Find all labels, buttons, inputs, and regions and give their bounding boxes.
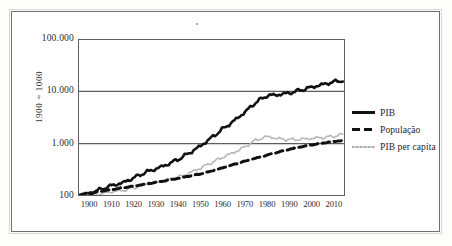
legend-label: PIB per capita — [380, 142, 436, 152]
thin-line-key — [352, 141, 375, 152]
legend-item: PIB per capita — [352, 138, 444, 155]
legend-label: PIB — [380, 108, 395, 118]
dashed-line-key — [352, 124, 375, 135]
y-tick-label: 100.000 — [42, 33, 74, 43]
legend-label: População — [380, 125, 420, 135]
y-tick-label: 10.000 — [47, 85, 74, 95]
solid-line-key — [352, 107, 375, 118]
figure: 1001.00010.000100.000 1900 = 1000 190019… — [0, 0, 452, 246]
y-tick-label: 1.000 — [52, 138, 74, 148]
chart-legend: PIBPopulaçãoPIB per capita — [352, 104, 444, 155]
legend-item: População — [352, 121, 444, 138]
y-axis-tick-labels: 1001.00010.000100.000 — [24, 0, 74, 246]
x-axis-tick-labels: 1900191019201930194019501960197019801990… — [78, 199, 345, 215]
y-axis-title: 1900 = 1000 — [34, 52, 44, 142]
y-tick-label: 100 — [59, 190, 74, 200]
scan-speck — [196, 23, 198, 25]
x-tick-label: 2010 — [321, 199, 347, 209]
plot-area — [78, 39, 345, 196]
legend-item: PIB — [352, 104, 444, 121]
plot-border — [78, 39, 345, 196]
